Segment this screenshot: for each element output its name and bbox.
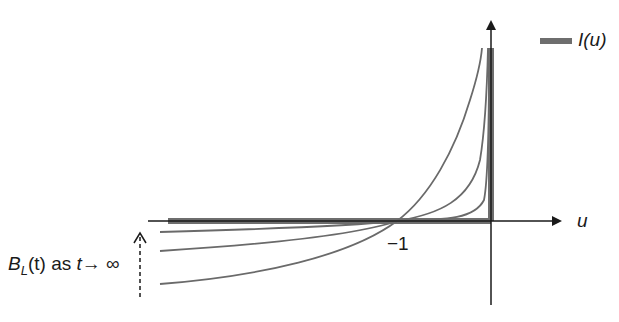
curve-3 [160,60,489,232]
curves-BL [160,48,489,284]
axes [148,22,560,305]
annotation-as: as [46,253,77,274]
annotation-arrow: → [82,253,101,274]
annotation-subscript: L [21,263,28,278]
legend-label: I(u) [578,29,607,51]
annotation-prefix: B [8,253,21,274]
dashed-arrow-icon [134,233,146,297]
annotation-paren: (t) [28,253,46,274]
tick-label-minus-one: −1 [387,233,409,255]
annotation-label: BL(t) as t→ ∞ [8,253,120,278]
limit-function-I [168,48,491,221]
annotation-infinity: ∞ [101,253,120,274]
x-axis-label: u [577,210,588,232]
curve-1 [160,48,482,284]
